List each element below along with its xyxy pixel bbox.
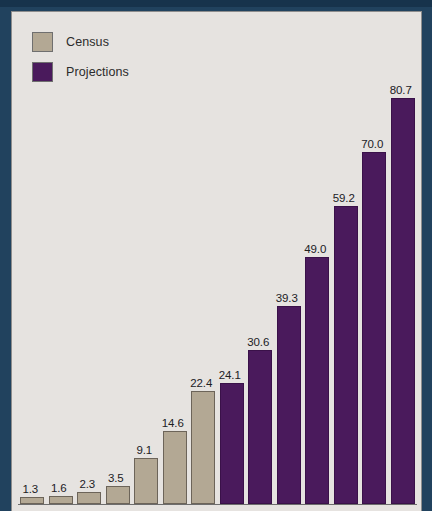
bar-census [134,458,158,504]
bar-value-label: 70.0 [361,138,383,150]
bar-value-label: 49.0 [304,243,326,255]
bar-census [77,492,101,504]
backdrop-top-strip [0,0,432,7]
bar-slot: 22.4 [189,61,218,504]
bar-value-label: 22.4 [190,377,212,389]
bar-slot: 30.6 [246,61,275,504]
bar-slot: 1.6 [47,61,76,504]
plot-area: 1.31.62.33.59.114.622.424.130.639.349.05… [12,11,421,511]
bar-slot: 59.2 [332,61,361,504]
bar-slot: 49.0 [303,61,332,504]
x-axis-baseline [18,504,417,505]
bar-value-label: 2.3 [79,478,95,490]
bar-value-label: 39.3 [276,292,298,304]
bar-slot: 9.1 [132,61,161,504]
bar-slot: 24.1 [218,61,247,504]
bar-slot: 80.7 [389,61,418,504]
bar-slot: 39.3 [275,61,304,504]
bar-projections [391,98,415,504]
bar-slot: 70.0 [360,61,389,504]
bar-value-label: 3.5 [108,472,124,484]
bar-value-label: 80.7 [390,84,412,96]
bar-value-label: 24.1 [219,369,241,381]
bar-projections [277,306,301,504]
bar-series-container: 1.31.62.33.59.114.622.424.130.639.349.05… [18,61,417,504]
bar-value-label: 1.6 [51,482,67,494]
bar-slot: 2.3 [75,61,104,504]
bar-projections [305,257,329,504]
chart-panel: Census Projections 1.31.62.33.59.114.622… [11,11,422,511]
bar-census [191,391,215,504]
bar-projections [248,350,272,504]
bar-value-label: 1.3 [22,483,38,495]
bar-projections [334,206,358,504]
bar-census [106,486,130,504]
bar-value-label: 9.1 [136,444,152,456]
bar-census [49,496,73,504]
bar-value-label: 14.6 [162,417,184,429]
bar-projections [220,383,244,504]
bar-slot: 1.3 [18,61,47,504]
bar-census [163,431,187,504]
bar-projections [362,152,386,504]
bar-slot: 3.5 [104,61,133,504]
bar-value-label: 59.2 [333,192,355,204]
bar-slot: 14.6 [161,61,190,504]
bar-value-label: 30.6 [247,336,269,348]
